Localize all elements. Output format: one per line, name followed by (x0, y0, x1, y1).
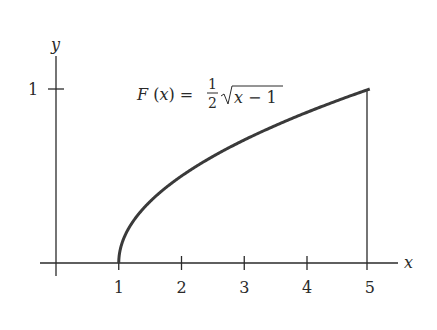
x-tick-label-2: 2 (177, 278, 187, 297)
y-tick-label-1: 1 (28, 80, 38, 99)
x-tick-label-4: 4 (302, 278, 312, 297)
annotation-radicand: x − 1 (234, 88, 277, 107)
function-curve (119, 89, 370, 263)
function-annotation: F (x) = 1 2 x − 1 (136, 76, 283, 111)
x-tick-label-5: 5 (365, 278, 375, 297)
chart: y x 1 12345 F (x) = 1 2 x − 1 (0, 0, 437, 330)
annotation-lhs: F (x) = (136, 85, 193, 104)
x-tick-labels: 12345 (114, 278, 375, 297)
x-tick-label-3: 3 (239, 278, 249, 297)
x-tick-label-1: 1 (114, 278, 124, 297)
x-axis-label: x (404, 253, 413, 272)
annotation-frac-den: 2 (208, 95, 217, 111)
annotation-frac-num: 1 (208, 76, 217, 92)
y-axis-label: y (50, 35, 61, 54)
